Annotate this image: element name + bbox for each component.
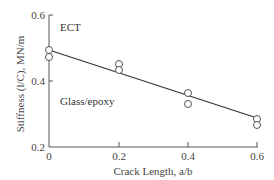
data-point: [46, 54, 53, 61]
material-label: Glass/epoxy: [60, 95, 115, 107]
fit-line: [49, 50, 257, 118]
axes: [49, 15, 258, 147]
y-axis-title: Stiffness (l/C), MN/m: [14, 35, 27, 132]
data-point: [254, 122, 261, 129]
data-point: [185, 101, 192, 108]
data-point: [185, 90, 192, 97]
y-tick-label-0.2: 0.2: [31, 141, 45, 153]
x-tick-label-0.4: 0.4: [181, 150, 195, 162]
x-axis-title: Crack Length, a/b: [113, 165, 193, 177]
method-label-ect: ECT: [60, 21, 81, 33]
x-tick-label-0.2: 0.2: [112, 150, 126, 162]
data-point: [46, 47, 53, 54]
stiffness-vs-crack-length-chart: 0.6 0.4 0.2 0 0.2 0.4 0.6 Crack Length, …: [0, 0, 274, 180]
data-point: [116, 67, 123, 74]
x-tick-label-0: 0: [46, 150, 52, 162]
y-tick-label-0.4: 0.4: [31, 75, 45, 87]
x-tick-label-0.6: 0.6: [250, 150, 264, 162]
y-tick-label-0.6: 0.6: [31, 9, 45, 21]
